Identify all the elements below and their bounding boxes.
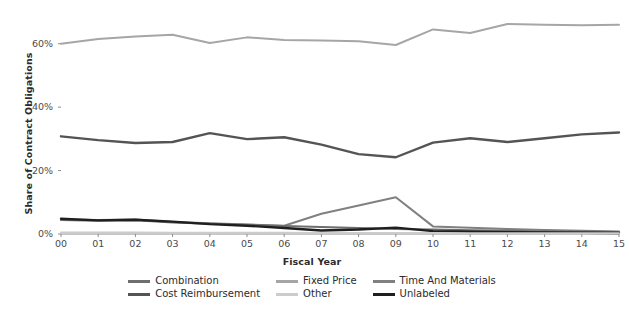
x-axis-tick-label: 09 <box>381 238 411 249</box>
legend-label: Combination <box>155 275 219 287</box>
x-axis-tick-label: 08 <box>344 238 374 249</box>
chart-legend: CombinationCost ReimbursementFixed Price… <box>0 275 624 300</box>
legend-entry[interactable]: Fixed Price <box>276 275 357 287</box>
legend-label: Time And Materials <box>400 275 496 287</box>
series-line-time-and-materials <box>61 197 619 231</box>
x-axis-tick-label: 04 <box>195 238 225 249</box>
series-line-other <box>61 232 619 233</box>
x-axis-tick-label: 03 <box>158 238 188 249</box>
x-axis-tick-label: 00 <box>46 238 76 249</box>
legend-color-swatch <box>276 293 298 296</box>
x-axis-tick-label: 14 <box>567 238 597 249</box>
x-axis-tick-label: 01 <box>83 238 113 249</box>
x-axis-tick-label: 07 <box>306 238 336 249</box>
legend-entry[interactable]: Other <box>276 288 357 300</box>
legend-entry[interactable]: Cost Reimbursement <box>128 288 260 300</box>
legend-color-swatch <box>128 280 150 283</box>
x-axis-tick-label: 05 <box>232 238 262 249</box>
legend-label: Cost Reimbursement <box>155 288 260 300</box>
legend-entry[interactable]: Unlabeled <box>373 288 496 300</box>
legend-color-swatch <box>373 280 395 283</box>
x-axis-tick-label: 11 <box>455 238 485 249</box>
x-axis-tick-label: 12 <box>492 238 522 249</box>
series-line-fixed-price <box>61 24 619 45</box>
legend-color-swatch <box>128 293 150 296</box>
x-axis-tick-label: 13 <box>530 238 560 249</box>
x-axis-tick-label: 02 <box>120 238 150 249</box>
y-axis-tick-label: 20% <box>9 165 53 176</box>
legend-entry[interactable]: Combination <box>128 275 260 287</box>
legend-color-swatch <box>373 293 395 296</box>
x-axis-tick-label: 15 <box>604 238 629 249</box>
x-axis-tick-label: 10 <box>418 238 448 249</box>
y-axis-tick-label: 40% <box>9 101 53 112</box>
legend-color-swatch <box>276 280 298 283</box>
legend-entry[interactable]: Time And Materials <box>373 275 496 287</box>
y-axis-title: Share of Contract Obligations <box>23 24 34 244</box>
legend-label: Other <box>303 288 331 300</box>
x-axis-title: Fiscal Year <box>0 256 624 267</box>
x-axis-tick-label: 06 <box>269 238 299 249</box>
legend-label: Unlabeled <box>400 288 450 300</box>
series-line-cost-reimbursement <box>61 133 619 158</box>
y-axis-tick-label: 60% <box>9 38 53 49</box>
legend-label: Fixed Price <box>303 275 357 287</box>
